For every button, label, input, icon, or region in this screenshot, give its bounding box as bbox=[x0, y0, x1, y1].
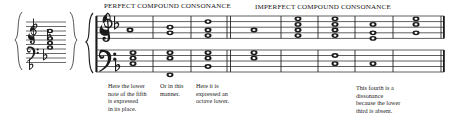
whole-note bbox=[167, 30, 174, 35]
left-bracket bbox=[15, 12, 22, 70]
whole-note bbox=[205, 19, 212, 24]
measure-1 bbox=[127, 28, 137, 67]
whole-note bbox=[167, 50, 174, 55]
whole-note bbox=[370, 36, 377, 41]
whole-note bbox=[295, 22, 302, 27]
whole-note bbox=[130, 50, 137, 55]
whole-note bbox=[413, 22, 420, 27]
whole-note bbox=[413, 30, 420, 35]
whole-note bbox=[205, 28, 212, 33]
whole-note bbox=[370, 30, 377, 35]
whole-note bbox=[167, 25, 174, 30]
cluster-chord-stack bbox=[47, 29, 53, 50]
whole-note bbox=[370, 61, 377, 66]
whole-note bbox=[130, 56, 137, 61]
measure-8 bbox=[413, 16, 420, 35]
measure-3 bbox=[205, 19, 212, 69]
whole-note bbox=[332, 53, 339, 58]
measure-7 bbox=[370, 22, 377, 66]
whole-note bbox=[130, 61, 137, 66]
whole-note bbox=[205, 50, 212, 55]
music-notation-figure: PERFECT COMPOUND CONSONANCE IMPERFECT CO… bbox=[0, 0, 449, 123]
whole-note bbox=[332, 16, 339, 21]
compressed-staff-cluster bbox=[15, 12, 77, 70]
whole-note bbox=[167, 72, 174, 77]
main-staff-system bbox=[86, 13, 445, 78]
right-bracket bbox=[70, 12, 77, 70]
whole-note bbox=[251, 56, 258, 61]
whole-note bbox=[370, 22, 377, 27]
whole-note bbox=[332, 28, 339, 33]
treble-staff-lines bbox=[96, 16, 444, 38]
whole-note bbox=[205, 56, 212, 61]
whole-note bbox=[127, 28, 134, 33]
whole-note bbox=[167, 56, 174, 61]
whole-note bbox=[295, 33, 302, 38]
system-left-bar bbox=[95, 16, 97, 72]
whole-note bbox=[332, 61, 339, 66]
key-signature-flat-bass bbox=[115, 58, 120, 72]
measure-6 bbox=[332, 16, 339, 66]
bass-staff-lines bbox=[96, 50, 444, 72]
notation-canvas bbox=[0, 0, 449, 123]
whole-note bbox=[332, 22, 339, 27]
measure-2 bbox=[167, 25, 174, 77]
whole-note bbox=[413, 16, 420, 21]
whole-note bbox=[205, 33, 212, 38]
system-brace bbox=[86, 13, 93, 73]
whole-note bbox=[295, 16, 302, 21]
whole-note bbox=[295, 28, 302, 33]
whole-note bbox=[332, 33, 339, 38]
whole-note bbox=[251, 50, 258, 55]
key-signature-flat-treble bbox=[114, 16, 119, 30]
treble-clef bbox=[100, 13, 113, 42]
whole-note bbox=[205, 64, 212, 69]
whole-note bbox=[251, 28, 258, 33]
